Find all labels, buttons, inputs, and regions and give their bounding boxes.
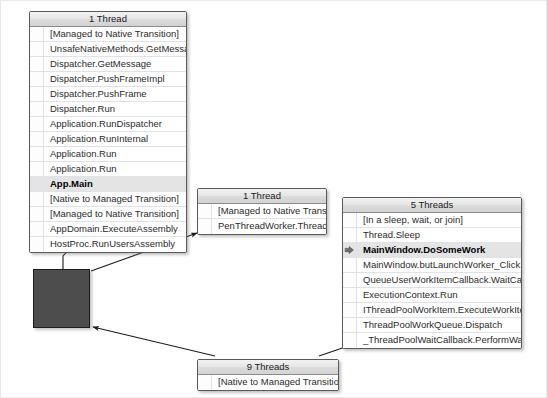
frame-gutter: [30, 147, 44, 161]
stack-frame-label: HostProc.RunUsersAssembly: [46, 237, 184, 251]
stack-node-native-threads[interactable]: 9 Threads [Native to Managed Transition]: [197, 359, 339, 391]
stack-frame-label: MainWindow.DoSomeWork: [359, 243, 519, 257]
stack-frame-row[interactable]: UnsafeNativeMethods.GetMessageW: [30, 42, 186, 57]
stack-frame-list: [In a sleep, wait, or join] Thread.Sleep…: [343, 213, 521, 348]
frame-gutter: [343, 213, 357, 227]
frame-gutter: [30, 192, 44, 206]
stack-frame-label: Dispatcher.Run: [46, 102, 184, 116]
parallel-stacks-canvas[interactable]: 1 Thread [Managed to Native Transition] …: [0, 0, 547, 398]
stack-frame-label: ExecutionContext.Run: [359, 288, 519, 302]
frame-gutter: [30, 162, 44, 176]
stack-frame-label: [Managed to Native Transition]: [46, 27, 184, 41]
stack-frame-list: [Managed to Native Transition] PenThread…: [198, 204, 326, 234]
stack-frame-row[interactable]: MainWindow.butLaunchWorker_Click.Anony..…: [343, 258, 521, 273]
stack-frame-label: PenThreadWorker.ThreadProc: [214, 219, 324, 233]
stack-frame-row[interactable]: AppDomain.ExecuteAssembly: [30, 222, 186, 237]
stack-frame-row-current[interactable]: App.Main: [30, 177, 186, 192]
frame-gutter: [198, 204, 212, 218]
stack-frame-row[interactable]: PenThreadWorker.ThreadProc: [198, 219, 326, 234]
frame-gutter: [30, 87, 44, 101]
stack-frame-label: [Native to Managed Transition]: [46, 192, 184, 206]
frame-gutter: [30, 57, 44, 71]
stack-frame-label: Thread.Sleep: [359, 228, 519, 242]
stack-frame-row[interactable]: Application.Run: [30, 147, 186, 162]
stack-frame-row[interactable]: [In a sleep, wait, or join]: [343, 213, 521, 228]
frame-gutter: [198, 375, 212, 390]
frame-gutter: [343, 273, 357, 287]
stack-node-header: 5 Threads: [343, 198, 521, 213]
stack-frame-label: Application.Run: [46, 162, 184, 176]
stack-frame-row[interactable]: [Managed to Native Transition]: [30, 207, 186, 222]
frame-gutter: [30, 132, 44, 146]
stack-frame-label: QueueUserWorkItemCallback.WaitCallback_.…: [359, 273, 519, 287]
stack-frame-row[interactable]: QueueUserWorkItemCallback.WaitCallback_.…: [343, 273, 521, 288]
stack-node-header: 1 Thread: [30, 12, 186, 27]
frame-gutter: [30, 237, 44, 252]
stack-frame-row-current[interactable]: MainWindow.DoSomeWork: [343, 243, 521, 258]
stack-frame-label: [In a sleep, wait, or join]: [359, 213, 519, 227]
current-thread-marker-icon: [344, 245, 355, 256]
stack-frame-row[interactable]: _ThreadPoolWaitCallback.PerformWaitCallb…: [343, 333, 521, 348]
stack-frame-row[interactable]: IThreadPoolWorkItem.ExecuteWorkItem: [343, 303, 521, 318]
frame-gutter: [198, 219, 212, 234]
stack-frame-label: Dispatcher.GetMessage: [46, 57, 184, 71]
stack-frame-row[interactable]: Dispatcher.GetMessage: [30, 57, 186, 72]
stack-frame-label: UnsafeNativeMethods.GetMessageW: [46, 42, 184, 56]
stack-frame-label: AppDomain.ExecuteAssembly: [46, 222, 184, 236]
stack-frame-row[interactable]: Application.Run: [30, 162, 186, 177]
stack-frame-label: [Managed to Native Transition]: [214, 204, 324, 218]
frame-gutter: [30, 42, 44, 56]
stack-frame-row[interactable]: [Native to Managed Transition]: [30, 192, 186, 207]
frame-gutter: [30, 27, 44, 41]
edge-native-to-collapsed: [93, 327, 215, 356]
stack-frame-row[interactable]: ThreadPoolWorkQueue.Dispatch: [343, 318, 521, 333]
stack-frame-label: ThreadPoolWorkQueue.Dispatch: [359, 318, 519, 332]
stack-node-header: 1 Thread: [198, 189, 326, 204]
stack-frame-label: Application.Run: [46, 147, 184, 161]
stack-frame-row[interactable]: Dispatcher.PushFrame: [30, 87, 186, 102]
frame-gutter: [343, 318, 357, 332]
frame-gutter: [30, 117, 44, 131]
frame-gutter: [30, 102, 44, 116]
frame-gutter: [30, 72, 44, 86]
stack-frame-label: Application.RunDispatcher: [46, 117, 184, 131]
frame-gutter: [30, 177, 44, 191]
stack-frame-label: MainWindow.butLaunchWorker_Click.Anony..…: [359, 258, 519, 272]
stack-frame-row[interactable]: HostProc.RunUsersAssembly: [30, 237, 186, 252]
stack-frame-row[interactable]: [Native to Managed Transition]: [198, 375, 338, 390]
stack-frame-label: [Managed to Native Transition]: [46, 207, 184, 221]
stack-frame-label: Dispatcher.PushFrameImpl: [46, 72, 184, 86]
stack-frame-row[interactable]: [Managed to Native Transition]: [30, 27, 186, 42]
stack-frame-label: App.Main: [46, 177, 184, 191]
frame-gutter: [343, 258, 357, 272]
collapsed-stack-node[interactable]: [33, 269, 90, 328]
frame-gutter: [343, 303, 357, 317]
stack-frame-label: _ThreadPoolWaitCallback.PerformWaitCallb…: [359, 333, 519, 347]
frame-gutter: [343, 228, 357, 242]
stack-frame-list: [Native to Managed Transition]: [198, 375, 338, 390]
frame-gutter: [343, 333, 357, 348]
stack-frame-row[interactable]: ExecutionContext.Run: [343, 288, 521, 303]
stack-node-worker-threads[interactable]: 5 Threads [In a sleep, wait, or join] Th…: [342, 197, 522, 349]
stack-frame-label: Application.RunInternal: [46, 132, 184, 146]
stack-frame-row[interactable]: Dispatcher.PushFrameImpl: [30, 72, 186, 87]
stack-node-pen-thread[interactable]: 1 Thread [Managed to Native Transition] …: [197, 188, 327, 235]
stack-frame-label: IThreadPoolWorkItem.ExecuteWorkItem: [359, 303, 519, 317]
stack-node-main-thread[interactable]: 1 Thread [Managed to Native Transition] …: [29, 11, 187, 253]
stack-frame-row[interactable]: Application.RunInternal: [30, 132, 186, 147]
stack-frame-row[interactable]: Thread.Sleep: [343, 228, 521, 243]
stack-frame-row[interactable]: Application.RunDispatcher: [30, 117, 186, 132]
frame-gutter: [343, 288, 357, 302]
stack-frame-row[interactable]: [Managed to Native Transition]: [198, 204, 326, 219]
stack-node-header: 9 Threads: [198, 360, 338, 375]
stack-frame-row[interactable]: Dispatcher.Run: [30, 102, 186, 117]
stack-frame-label: Dispatcher.PushFrame: [46, 87, 184, 101]
frame-gutter: [30, 207, 44, 221]
stack-frame-list: [Managed to Native Transition] UnsafeNat…: [30, 27, 186, 252]
stack-frame-label: [Native to Managed Transition]: [214, 375, 336, 389]
frame-gutter: [30, 222, 44, 236]
